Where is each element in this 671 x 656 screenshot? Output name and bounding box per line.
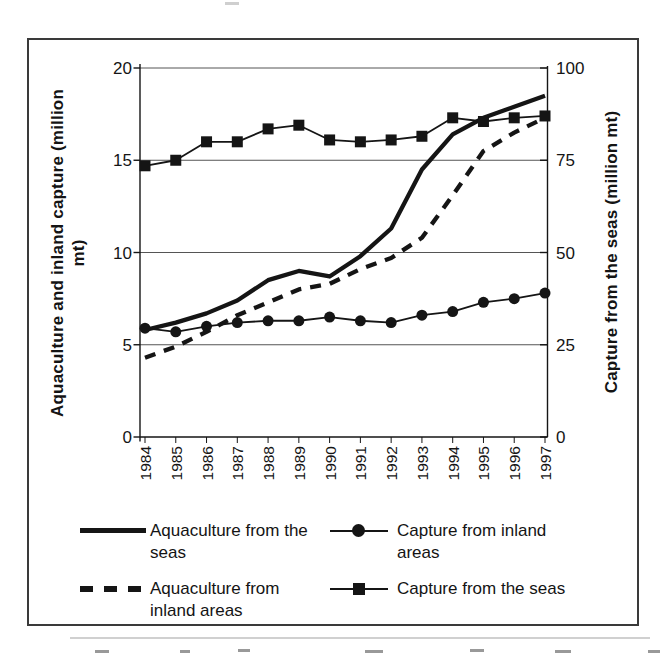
left-axis-tick-label: 15	[113, 151, 132, 170]
legend-item-aquaculture-from-inland-areas: Aquaculture from inland areas	[80, 578, 322, 622]
x-axis-year-label: 1986	[199, 446, 216, 480]
series-capture-from-the-seas-marker	[170, 155, 181, 166]
left-axis-title-line1: Aquaculture and inland capture (million	[47, 58, 68, 448]
series-aquaculture-from-the-seas-line	[145, 96, 545, 330]
series-capture-from-inland-areas-marker	[447, 306, 458, 317]
series-capture-from-the-seas-marker	[293, 120, 304, 131]
series-capture-from-inland-areas-marker	[293, 315, 304, 326]
x-axis-year-label: 1992	[383, 446, 400, 480]
legend-sample	[330, 578, 388, 600]
legend-sample	[330, 520, 388, 542]
series-capture-from-the-seas-marker	[355, 136, 366, 147]
legend-item-capture-from-inland-areas: Capture from inland areas	[330, 520, 587, 564]
series-capture-from-the-seas-marker	[324, 134, 335, 145]
dashed-line-swatch	[80, 586, 146, 592]
x-axis-year-label: 1987	[229, 446, 246, 480]
x-axis-year-label: 1994	[445, 446, 462, 481]
series-capture-from-inland-areas-marker	[386, 317, 397, 328]
series-capture-from-the-seas-marker	[447, 112, 458, 123]
left-axis-tick-label: 5	[123, 336, 132, 355]
solid-thick-line-swatch	[80, 528, 146, 533]
series-capture-from-inland-areas-marker	[478, 297, 489, 308]
series-capture-from-inland-areas-marker	[201, 321, 212, 332]
series-capture-from-inland-areas-marker	[232, 317, 243, 328]
series-capture-from-the-seas-marker	[416, 131, 427, 142]
legend-sample	[80, 578, 146, 592]
series-capture-from-inland-areas-marker	[170, 326, 181, 337]
right-axis-tick-label: 50	[556, 244, 575, 263]
right-axis-tick-label: 75	[556, 151, 575, 170]
series-capture-from-the-seas-marker	[386, 134, 397, 145]
series-capture-from-the-seas-marker	[478, 116, 489, 127]
legend-label: Capture from the seas	[397, 578, 587, 600]
circle-marker-icon	[352, 524, 365, 537]
x-axis-year-label: 1997	[537, 446, 554, 480]
right-axis-tick-label: 100	[556, 59, 584, 78]
x-axis-year-label: 1989	[291, 446, 308, 480]
series-capture-from-inland-areas-marker	[263, 315, 274, 326]
series-capture-from-the-seas-marker	[201, 136, 212, 147]
series-capture-from-inland-areas-marker	[355, 315, 366, 326]
x-axis-year-label: 1991	[352, 446, 369, 480]
x-axis-year-label: 1996	[506, 446, 523, 480]
series-capture-from-the-seas-marker	[140, 160, 151, 171]
series-capture-from-inland-areas-marker	[509, 293, 520, 304]
series-capture-from-the-seas-marker	[263, 123, 274, 134]
left-axis-title-line2: mt)	[68, 58, 89, 448]
series-capture-from-inland-areas-marker	[416, 310, 427, 321]
series-capture-from-the-seas-marker	[540, 110, 551, 121]
x-axis-year-label: 1985	[168, 446, 185, 480]
x-axis-year-label: 1988	[260, 446, 277, 480]
series-capture-from-the-seas-marker	[232, 136, 243, 147]
right-axis-tick-label: 0	[556, 428, 565, 447]
scanned-figure-page: { "chart_data": { "type": "line", "x": […	[0, 0, 671, 656]
x-axis-year-label: 1995	[475, 446, 492, 480]
left-axis-tick-label: 0	[123, 428, 132, 447]
legend-item-capture-from-the-seas: Capture from the seas	[330, 578, 587, 600]
legend-sample	[80, 520, 146, 533]
series-capture-from-inland-areas-marker	[140, 323, 151, 334]
left-axis-tick-label: 20	[113, 59, 132, 78]
legend-label: Aquaculture from the seas	[150, 520, 322, 564]
right-axis-tick-label: 25	[556, 336, 575, 355]
right-axis-title: Capture from the seas (million mt)	[601, 57, 623, 447]
square-marker-icon	[353, 583, 365, 595]
left-axis-tick-label: 10	[113, 244, 132, 263]
legend-label: Aquaculture from inland areas	[150, 578, 322, 622]
series-capture-from-inland-areas-marker	[324, 312, 335, 323]
series-capture-from-inland-areas-marker	[540, 288, 551, 299]
x-axis-year-label: 1990	[322, 446, 339, 481]
legend-label: Capture from inland areas	[397, 520, 587, 564]
series-capture-from-the-seas-marker	[509, 112, 520, 123]
left-axis-title: Aquaculture and inland capture (million …	[47, 58, 91, 448]
x-axis-year-label: 1984	[137, 446, 154, 481]
legend-item-aquaculture-from-the-seas: Aquaculture from the seas	[80, 520, 322, 564]
x-axis-year-label: 1993	[414, 446, 431, 480]
